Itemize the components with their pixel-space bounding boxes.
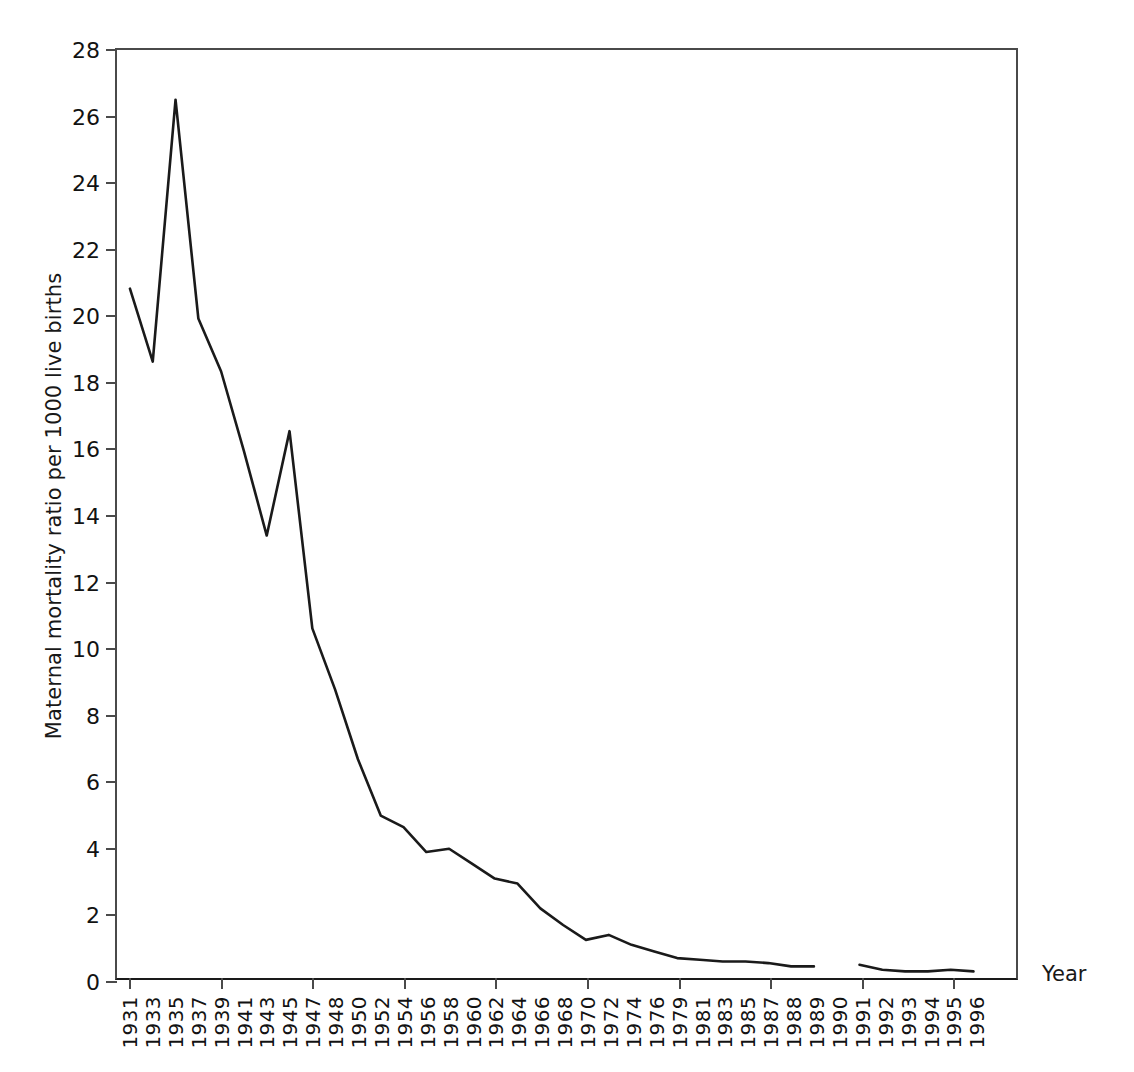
x-tick-label: 1962 (486, 996, 506, 1049)
x-tick-label: 1948 (326, 996, 346, 1049)
x-tick-label: 1992 (876, 996, 896, 1049)
x-tick-label: 1935 (166, 996, 186, 1049)
x-tick-mark (679, 978, 681, 989)
x-axis-title: Year (1042, 962, 1086, 986)
x-tick-label: 1979 (670, 996, 690, 1049)
x-tick-label: 1952 (372, 996, 392, 1049)
x-tick-label: 1941 (235, 996, 255, 1049)
x-tick-label: 1972 (601, 996, 621, 1049)
y-tick-mark (106, 781, 117, 783)
y-tick-label: 12 (60, 573, 100, 595)
x-tick-mark (587, 978, 589, 989)
y-tick-label: 26 (60, 107, 100, 129)
y-tick-label: 0 (60, 972, 100, 994)
y-tick-label: 14 (60, 506, 100, 528)
x-tick-label: 1993 (899, 996, 919, 1049)
y-tick-mark (106, 848, 117, 850)
x-tick-label: 1939 (212, 996, 232, 1049)
y-tick-mark (106, 715, 117, 717)
y-tick-mark (106, 182, 117, 184)
x-tick-label: 1976 (647, 996, 667, 1049)
y-tick-label: 2 (60, 905, 100, 927)
x-tick-label: 1958 (441, 996, 461, 1049)
y-tick-label: 22 (60, 240, 100, 262)
x-tick-label: 1983 (715, 996, 735, 1049)
x-tick-label: 1970 (578, 996, 598, 1049)
x-tick-label: 1994 (922, 996, 942, 1049)
x-tick-label: 1987 (761, 996, 781, 1049)
x-tick-label: 1974 (624, 996, 644, 1049)
x-tick-label: 1968 (555, 996, 575, 1049)
y-tick-mark (106, 448, 117, 450)
y-tick-mark (106, 648, 117, 650)
y-tick-mark (106, 49, 117, 51)
x-tick-mark (862, 978, 864, 989)
x-tick-label: 1950 (349, 996, 369, 1049)
y-tick-label: 10 (60, 639, 100, 661)
x-tick-mark (312, 978, 314, 989)
x-tick-label: 1981 (693, 996, 713, 1049)
x-tick-mark (770, 978, 772, 989)
x-tick-label: 1947 (303, 996, 323, 1049)
x-tick-label: 1988 (784, 996, 804, 1049)
y-tick-mark (106, 515, 117, 517)
x-tick-label: 1989 (807, 996, 827, 1049)
x-tick-mark (129, 978, 131, 989)
series-segment (859, 965, 973, 972)
x-tick-label: 1960 (464, 996, 484, 1049)
y-tick-mark (106, 249, 117, 251)
x-tick-label: 1937 (189, 996, 209, 1049)
x-tick-mark (495, 978, 497, 989)
x-tick-label: 1990 (830, 996, 850, 1049)
y-tick-mark (106, 315, 117, 317)
x-tick-mark (221, 978, 223, 989)
x-tick-label: 1991 (853, 996, 873, 1049)
x-tick-label: 1945 (280, 996, 300, 1049)
x-tick-label: 1931 (120, 996, 140, 1049)
y-tick-label: 4 (60, 839, 100, 861)
maternal-mortality-figure: Maternal mortality ratio per 1000 live b… (0, 0, 1134, 1072)
y-tick-mark (106, 582, 117, 584)
y-tick-label: 16 (60, 439, 100, 461)
plot-area: 0246810121416182022242628 19311933193519… (115, 48, 1018, 980)
x-tick-label: 1933 (143, 996, 163, 1049)
x-tick-label: 1964 (509, 996, 529, 1049)
y-tick-mark (106, 914, 117, 916)
y-tick-label: 24 (60, 173, 100, 195)
y-tick-label: 8 (60, 706, 100, 728)
series-segment (130, 100, 814, 967)
y-tick-label: 6 (60, 772, 100, 794)
x-tick-label: 1954 (395, 996, 415, 1049)
y-tick-mark (106, 981, 117, 983)
x-tick-mark (404, 978, 406, 989)
y-tick-label: 18 (60, 373, 100, 395)
x-tick-label: 1996 (967, 996, 987, 1049)
y-tick-mark (106, 116, 117, 118)
y-tick-mark (106, 382, 117, 384)
x-tick-mark (953, 978, 955, 989)
x-tick-label: 1966 (532, 996, 552, 1049)
x-tick-label: 1956 (418, 996, 438, 1049)
y-tick-label: 28 (60, 40, 100, 62)
x-tick-label: 1985 (738, 996, 758, 1049)
x-tick-label: 1943 (257, 996, 277, 1049)
y-tick-label: 20 (60, 306, 100, 328)
series-line (117, 50, 1016, 978)
x-tick-label: 1995 (944, 996, 964, 1049)
